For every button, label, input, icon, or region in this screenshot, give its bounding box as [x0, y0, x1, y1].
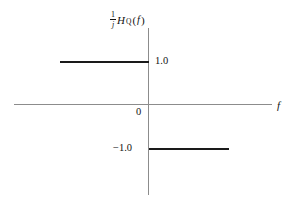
- origin-label: 0: [136, 107, 141, 118]
- figure-container: 1 j H Q ( f ) 1.0 0 −1.0 f: [0, 0, 290, 204]
- function-symbol: H: [117, 15, 125, 26]
- open-paren: (: [132, 15, 136, 26]
- y-tick-label-positive: 1.0: [155, 56, 168, 67]
- transfer-function-plot: [0, 0, 290, 204]
- x-axis-title: f: [277, 100, 280, 111]
- y-axis-title: 1 j H Q ( f ): [110, 11, 145, 29]
- fraction-denominator: j: [111, 21, 115, 29]
- function-variable: f: [137, 15, 140, 26]
- y-tick-label-negative: −1.0: [113, 143, 132, 154]
- close-paren: ): [141, 15, 145, 26]
- fraction-one-over-j: 1 j: [110, 11, 116, 29]
- function-subscript: Q: [126, 18, 131, 26]
- fraction-numerator: 1: [110, 11, 116, 19]
